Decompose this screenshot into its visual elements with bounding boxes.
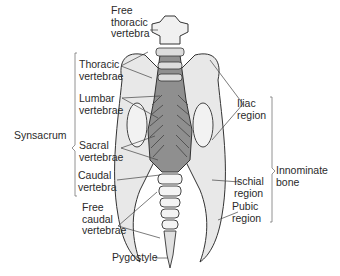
innominate-bracket <box>270 97 275 222</box>
label-pubic-region: Pubic region <box>232 201 261 224</box>
label-free-caudal-vertebrae: Free caudal vertebrae <box>82 202 126 237</box>
label-innominate-bone: Innominate bone <box>276 165 328 188</box>
label-ischial-region: Ischial region <box>234 176 264 199</box>
synsacrum-bracket <box>72 53 77 196</box>
label-synsacrum: Synsacrum <box>14 130 67 142</box>
label-caudal-vertebra: Caudal vertebra <box>78 170 117 193</box>
label-free-thoracic-vertebra: Free thoracic vertebra <box>111 5 150 40</box>
label-lumbar-vertebrae: Lumbar vertebrae <box>79 93 123 116</box>
label-iliac-region: Iliac region <box>237 98 266 121</box>
label-pygostyle: Pygostyle <box>112 252 158 264</box>
pygostyle-shape <box>164 231 176 268</box>
label-thoracic-vertebrae: Thoracic vertebrae <box>79 59 123 82</box>
label-sacral-vertebrae: Sacral vertebrae <box>79 140 123 163</box>
